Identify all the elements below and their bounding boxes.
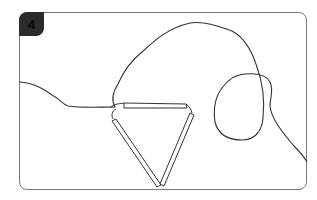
stick-left [112,119,161,187]
stick-top [124,103,187,108]
stick-right [160,113,194,186]
string-line [19,23,307,162]
string-and-sticks-illustration [0,0,317,200]
